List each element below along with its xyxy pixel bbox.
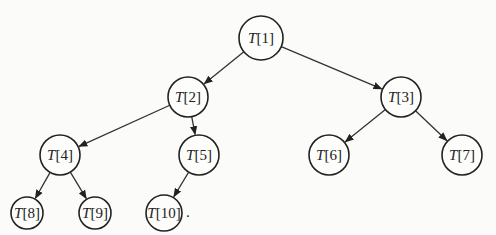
edges-group xyxy=(35,47,446,199)
nodes-group: T[1]T[2]T[3]T[4]T[5]T[6]T[7]T[8]T[9]T[10… xyxy=(11,16,482,231)
edge-4-to-8 xyxy=(35,172,50,198)
tree-diagram: T[1]T[2]T[3]T[4]T[5]T[6]T[7]T[8]T[9]T[10… xyxy=(0,0,496,235)
node-label: T[9] xyxy=(82,205,108,221)
tree-canvas: T[1]T[2]T[3]T[4]T[5]T[6]T[7]T[8]T[9]T[10… xyxy=(0,0,496,235)
node-label: T[2] xyxy=(175,89,201,105)
node-label: T[4] xyxy=(47,147,73,163)
tree-node-1: T[1] xyxy=(239,16,283,60)
node-label: T[8] xyxy=(14,205,40,221)
tree-node-5: T[5] xyxy=(179,135,219,175)
tree-node-7: T[7] xyxy=(442,135,482,175)
tree-node-8: T[8] xyxy=(11,197,43,229)
tree-node-2: T[2] xyxy=(168,77,208,117)
tree-node-9: T[9] xyxy=(79,197,111,229)
edge-2-to-5 xyxy=(192,117,195,135)
edge-2-to-4 xyxy=(79,105,170,146)
tree-node-4: T[4] xyxy=(40,135,80,175)
tree-node-3: T[3] xyxy=(381,77,421,117)
tree-node-6: T[6] xyxy=(309,135,349,175)
node-label: T[7] xyxy=(449,147,475,163)
edge-3-to-7 xyxy=(415,111,446,141)
trailing-period: . xyxy=(186,204,190,220)
edge-4-to-9 xyxy=(70,172,86,198)
node-label: T[10] xyxy=(147,205,180,221)
edge-5-to-10 xyxy=(174,172,189,197)
node-label: T[1] xyxy=(248,30,274,46)
node-label: T[5] xyxy=(186,147,212,163)
node-label: T[6] xyxy=(316,147,342,163)
edge-3-to-6 xyxy=(345,110,385,142)
edge-1-to-2 xyxy=(204,52,244,84)
tree-node-10: T[10] xyxy=(146,195,182,231)
edge-1-to-3 xyxy=(281,47,381,89)
node-label: T[3] xyxy=(388,89,414,105)
